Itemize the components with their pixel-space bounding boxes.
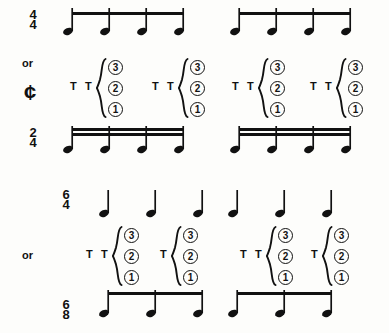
finger-number-3: 3 xyxy=(278,228,293,243)
finger-number-2: 2 xyxy=(190,81,205,96)
beam-bar xyxy=(72,133,184,136)
music-note xyxy=(339,126,355,156)
tongue-mark: T xyxy=(311,249,318,260)
music-note xyxy=(144,190,160,220)
music-note xyxy=(191,290,207,320)
music-note xyxy=(302,126,318,156)
time-signature-denominator: 4 xyxy=(55,200,77,210)
finger-number-3: 3 xyxy=(334,228,349,243)
curly-brace xyxy=(336,58,347,118)
music-note xyxy=(320,290,336,320)
tongue-mark: T xyxy=(85,81,92,92)
tongue-mark: T xyxy=(247,81,254,92)
music-note xyxy=(98,126,114,156)
music-note xyxy=(172,126,188,156)
music-note xyxy=(320,190,336,220)
music-note xyxy=(228,126,244,156)
finger-number-3: 3 xyxy=(348,60,363,75)
music-note xyxy=(97,190,113,220)
finger-number-1: 1 xyxy=(108,102,123,117)
curly-brace xyxy=(322,226,333,286)
finger-number-1: 1 xyxy=(334,270,349,285)
finger-number-1: 1 xyxy=(190,102,205,117)
tongue-mark: T xyxy=(86,249,93,260)
tongue-mark: T xyxy=(101,249,108,260)
music-note xyxy=(302,8,318,38)
music-notation-figure: 44or¢TT321TT321TT321TT3212464orTT321T321… xyxy=(0,0,389,333)
finger-number-1: 1 xyxy=(183,270,198,285)
tongue-mark: T xyxy=(152,81,159,92)
finger-number-2: 2 xyxy=(108,81,123,96)
finger-number-1: 1 xyxy=(348,102,363,117)
finger-number-2: 2 xyxy=(278,249,293,264)
finger-number-1: 1 xyxy=(124,270,139,285)
time-signature-denominator: 4 xyxy=(22,138,44,148)
finger-number-3: 3 xyxy=(124,228,139,243)
beam-bar xyxy=(108,292,203,295)
music-note xyxy=(144,290,160,320)
music-note xyxy=(228,8,244,38)
time-signature-numerator: 6 xyxy=(55,190,77,200)
music-note xyxy=(135,8,151,38)
curly-brace xyxy=(266,226,277,286)
cut-time-symbol: ¢ xyxy=(24,82,36,104)
beam-bar xyxy=(72,128,184,131)
tongue-mark: T xyxy=(310,81,317,92)
music-note xyxy=(273,190,289,220)
beam-bar xyxy=(239,128,351,131)
music-note xyxy=(265,126,281,156)
finger-number-2: 2 xyxy=(270,81,285,96)
music-note xyxy=(98,8,114,38)
curly-brace xyxy=(171,226,182,286)
finger-number-2: 2 xyxy=(124,249,139,264)
finger-number-2: 2 xyxy=(334,249,349,264)
tongue-mark: T xyxy=(255,249,262,260)
time-signature-numerator: 4 xyxy=(22,10,44,20)
time-signature-6-4: 64 xyxy=(55,190,77,210)
music-note xyxy=(61,126,77,156)
time-signature-numerator: 2 xyxy=(22,128,44,138)
finger-number-3: 3 xyxy=(183,228,198,243)
time-signature-denominator: 8 xyxy=(55,310,77,320)
finger-number-1: 1 xyxy=(278,270,293,285)
music-note xyxy=(273,290,289,320)
music-note xyxy=(191,190,207,220)
time-signature-numerator: 6 xyxy=(55,300,77,310)
finger-number-1: 1 xyxy=(270,102,285,117)
curly-brace xyxy=(258,58,269,118)
tongue-mark: T xyxy=(160,249,167,260)
music-note xyxy=(97,290,113,320)
notation-render-layer: 44or¢TT321TT321TT321TT3212464orTT321T321… xyxy=(0,0,389,333)
time-signature-4-4: 44 xyxy=(22,10,44,30)
music-note xyxy=(135,126,151,156)
time-signature-2-4: 24 xyxy=(22,128,44,148)
finger-number-3: 3 xyxy=(190,60,205,75)
or-label: or xyxy=(22,58,33,69)
or-label: or xyxy=(22,250,33,261)
time-signature-6-8: 68 xyxy=(55,300,77,320)
music-note xyxy=(265,8,281,38)
music-note xyxy=(61,8,77,38)
music-note xyxy=(172,8,188,38)
beam-bar xyxy=(237,292,332,295)
finger-number-3: 3 xyxy=(108,60,123,75)
tongue-mark: T xyxy=(232,81,239,92)
finger-number-2: 2 xyxy=(183,249,198,264)
tongue-mark: T xyxy=(167,81,174,92)
music-note xyxy=(226,290,242,320)
curly-brace xyxy=(112,226,123,286)
finger-number-2: 2 xyxy=(348,81,363,96)
music-note xyxy=(339,8,355,38)
finger-number-3: 3 xyxy=(270,60,285,75)
music-note xyxy=(226,190,242,220)
beam-bar xyxy=(72,12,184,15)
tongue-mark: T xyxy=(325,81,332,92)
curly-brace xyxy=(96,58,107,118)
time-signature-denominator: 4 xyxy=(22,20,44,30)
beam-bar xyxy=(239,133,351,136)
beam-bar xyxy=(239,12,351,15)
tongue-mark: T xyxy=(240,249,247,260)
curly-brace xyxy=(178,58,189,118)
tongue-mark: T xyxy=(70,81,77,92)
